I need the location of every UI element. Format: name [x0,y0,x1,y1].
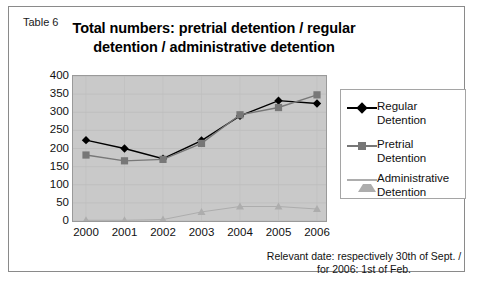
square-marker [82,151,89,158]
diamond-marker [356,102,367,113]
footnote-line-1: Relevant date: respectively 30th of Sept… [267,250,461,262]
y-tick-label: 250 [33,123,69,135]
legend-label: Administrative Detention [377,172,449,199]
y-tick-label: 350 [33,87,69,99]
footnote-line-2: for 2006: 1st of Feb. [317,263,411,275]
legend-swatch [347,101,377,115]
x-tick-label: 2005 [259,226,299,238]
x-tick-label: 2000 [66,226,106,238]
triangle-marker [358,176,376,192]
y-axis-tick-labels: 050100150200250300350400 [31,75,69,222]
x-tick-label: 2002 [143,226,183,238]
square-marker [313,91,320,98]
square-marker [236,111,243,118]
diamond-marker [313,99,321,107]
square-marker [121,157,128,164]
plot-area [72,75,327,222]
y-tick-label: 50 [33,196,69,208]
legend-label: Regular Detention [377,100,465,127]
y-tick-label: 100 [33,178,69,190]
y-tick-label: 200 [33,142,69,154]
triangle-marker [159,216,167,221]
x-tick-label: 2004 [220,226,260,238]
diamond-marker [274,96,282,104]
x-axis-tick-labels: 2000200120022003200420052006 [72,226,328,242]
diamond-marker [82,136,90,144]
square-marker [275,104,282,111]
y-tick-label: 0 [33,214,69,226]
chart-legend: Regular DetentionPretrial DetentionAdmin… [340,89,466,199]
x-tick-label: 2003 [182,226,222,238]
figure-frame: Table 6 Total numbers: pretrial detentio… [8,6,465,272]
square-marker [358,142,366,150]
square-marker [159,156,166,163]
y-tick-label: 150 [33,160,69,172]
square-marker [198,140,205,147]
diamond-marker [120,144,128,152]
legend-swatch [347,173,377,187]
y-tick-label: 300 [33,105,69,117]
legend-item[interactable]: Pretrial Detention [347,138,465,165]
x-tick-label: 2006 [297,226,337,238]
y-tick-label: 400 [33,69,69,81]
series-plot [73,76,326,221]
chart-title: Total numbers: pretrial detention / regu… [69,19,359,57]
table-label: Table 6 [23,16,58,28]
legend-label: Pretrial Detention [377,138,465,165]
legend-swatch [347,139,377,153]
legend-item[interactable]: Administrative Detention [347,172,449,199]
x-tick-label: 2001 [105,226,145,238]
legend-item[interactable]: Regular Detention [347,100,465,127]
footnote: Relevant date: respectively 30th of Sept… [259,250,469,276]
